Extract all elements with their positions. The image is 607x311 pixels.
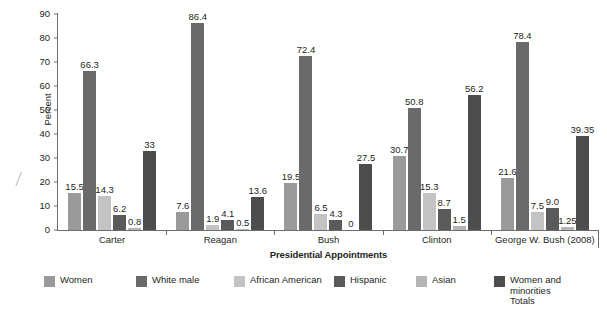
legend-item[interactable]: Women and minorities Totals	[494, 275, 584, 307]
legend-swatch	[234, 276, 245, 287]
bar[interactable]: 19.5	[284, 183, 297, 230]
bar-value-label: 33	[144, 139, 155, 150]
legend-item[interactable]: Women	[44, 275, 93, 287]
legend-label: African American	[250, 275, 322, 286]
bar-value-label: 6.2	[113, 203, 126, 214]
y-tick-label: 60	[39, 81, 50, 91]
bar[interactable]: 1.25	[561, 227, 574, 230]
bar[interactable]: 30.7	[393, 156, 406, 230]
bar[interactable]: 21.6	[501, 178, 514, 230]
y-tick-label: 30	[39, 153, 50, 163]
bar-value-label: 0	[348, 218, 353, 229]
bar-chart: Percent 0102030405060708090 15.566.314.3…	[0, 0, 607, 311]
y-tick-label: 10	[39, 201, 50, 211]
bar[interactable]: 0.5	[236, 229, 249, 230]
bar-group: 30.750.815.38.71.556.2	[383, 14, 491, 230]
bar-value-label: 15.3	[420, 181, 439, 192]
bar-value-label: 7.6	[176, 200, 189, 211]
bar-value-label: 72.4	[297, 44, 316, 55]
legend-label: White male	[152, 275, 200, 286]
bar[interactable]: 56.2	[468, 95, 481, 230]
bar[interactable]: 15.5	[68, 193, 81, 230]
x-axis-separator-tick	[383, 230, 384, 235]
bar[interactable]: 1.9	[206, 225, 219, 230]
x-axis-separator-tick	[491, 230, 492, 235]
legend: WomenWhite maleAfrican AmericanHispanicA…	[44, 275, 584, 307]
legend-swatch	[334, 276, 345, 287]
bar[interactable]: 72.4	[299, 56, 312, 230]
plot-area: 15.566.314.36.20.8337.686.41.94.10.513.6…	[58, 14, 599, 230]
bar-value-label: 21.6	[498, 166, 517, 177]
x-axis-group-label: George W. Bush (2008)	[491, 234, 599, 245]
bar-group: 21.678.47.59.01.2539.35	[491, 14, 599, 230]
bar[interactable]: 4.3	[329, 220, 342, 230]
y-tick-label: 50	[39, 105, 50, 115]
bar-value-label: 6.5	[314, 202, 327, 213]
bar[interactable]: 6.5	[314, 214, 327, 230]
bar[interactable]: 9.0	[546, 208, 559, 230]
bar-value-label: 50.8	[405, 96, 424, 107]
x-axis-group-label: Reagan	[166, 234, 274, 245]
bar-value-label: 15.5	[65, 181, 84, 192]
bar-value-label: 4.1	[221, 208, 234, 219]
bar[interactable]: 50.8	[408, 108, 421, 230]
bar[interactable]: 27.5	[359, 164, 372, 230]
bar-value-label: 13.6	[249, 185, 268, 196]
y-axis-ticks: 0102030405060708090	[22, 14, 54, 230]
y-tick-label: 70	[39, 57, 50, 67]
bar-value-label: 66.3	[80, 59, 99, 70]
legend-swatch	[494, 276, 505, 287]
bar[interactable]: 1.5	[453, 226, 466, 230]
bar[interactable]: 13.6	[251, 197, 264, 230]
bar[interactable]: 66.3	[83, 71, 96, 230]
bar[interactable]: 86.4	[191, 23, 204, 230]
bar[interactable]: 7.6	[176, 212, 189, 230]
legend-label: Women	[60, 275, 93, 286]
bar-value-label: 1.9	[206, 213, 219, 224]
bar-value-label: 1.25	[558, 215, 577, 226]
bar-value-label: 78.4	[513, 30, 532, 41]
bar[interactable]: 0.8	[128, 228, 141, 230]
bar[interactable]: 78.4	[516, 42, 529, 230]
y-tick-label: 40	[39, 129, 50, 139]
legend-label: Hispanic	[350, 275, 386, 286]
bar-value-label: 30.7	[390, 144, 409, 155]
bar[interactable]: 33	[143, 151, 156, 230]
bar-value-label: 9.0	[546, 196, 559, 207]
bar[interactable]: 14.3	[98, 196, 111, 230]
y-tick-label: 20	[39, 177, 50, 187]
bar[interactable]: 4.1	[221, 220, 234, 230]
x-axis-group-label: Bush	[274, 234, 382, 245]
bar[interactable]: 8.7	[438, 209, 451, 230]
x-axis-group-label: Clinton	[383, 234, 491, 245]
bar-value-label: 27.5	[357, 152, 376, 163]
bar-value-label: 56.2	[465, 83, 484, 94]
bar[interactable]: 39.35	[576, 136, 589, 230]
legend-swatch	[44, 276, 55, 287]
bar-value-label: 8.7	[438, 197, 451, 208]
legend-swatch	[416, 276, 427, 287]
legend-item[interactable]: African American	[234, 275, 322, 287]
legend-swatch	[136, 276, 147, 287]
legend-item[interactable]: Hispanic	[334, 275, 386, 287]
bar[interactable]: 7.5	[531, 212, 544, 230]
bar-value-label: 86.4	[189, 11, 208, 22]
bar-value-label: 0.5	[236, 217, 249, 228]
bar-value-label: 19.5	[282, 171, 301, 182]
legend-item[interactable]: White male	[136, 275, 200, 287]
legend-label: Women and minorities Totals	[510, 275, 584, 307]
y-tick-label: 90	[39, 9, 50, 19]
bar-group: 19.572.46.54.3027.5	[274, 14, 382, 230]
x-axis-separator-tick	[166, 230, 167, 235]
legend-item[interactable]: Asian	[416, 275, 456, 287]
x-axis-group-label: Carter	[58, 234, 166, 245]
x-axis-separator-tick	[274, 230, 275, 235]
bar-value-label: 7.5	[531, 200, 544, 211]
bar[interactable]: 6.2	[113, 215, 126, 230]
x-axis-line	[57, 230, 599, 231]
y-tick-label: 80	[39, 33, 50, 43]
bar[interactable]: 15.3	[423, 193, 436, 230]
bar-value-label: 39.35	[571, 124, 595, 135]
x-axis-title: Presidential Appointments	[58, 249, 599, 260]
y-tick-label: 0	[45, 225, 50, 235]
